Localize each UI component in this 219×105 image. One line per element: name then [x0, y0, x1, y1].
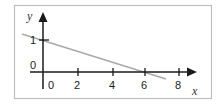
- x-axis-label: x: [191, 84, 198, 98]
- y-origin-label: 0: [30, 59, 36, 71]
- x-tick-label-8: 8: [175, 79, 181, 91]
- x-tick-label-2: 2: [74, 79, 80, 91]
- y-axis-label: y: [26, 9, 33, 23]
- x-tick-label-4: 4: [109, 79, 115, 91]
- x-tick-label-6: 6: [141, 79, 147, 91]
- x-tick-label-0: 0: [48, 79, 54, 91]
- y-tick-label-1: 1: [30, 34, 36, 46]
- chart: y x 1 0 0 2 4 6 8: [0, 0, 219, 105]
